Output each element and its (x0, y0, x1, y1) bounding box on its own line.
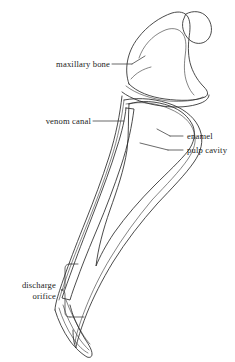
label-maxillary-bone: maxillary bone (56, 59, 110, 69)
venom-canal-band (62, 108, 134, 300)
label-enamel: enamel (187, 131, 213, 141)
maxillary-bone-suture (139, 29, 194, 95)
text-labels: maxillary bone venom canal enamel pulp c… (22, 59, 228, 301)
venom-canal-group (62, 108, 134, 300)
pulp-cavity-group (96, 102, 194, 266)
label-pulp-cavity: pulp cavity (187, 145, 228, 155)
leader-enamel-angled (157, 129, 170, 136)
fang-anterior-inner (59, 100, 124, 300)
maxillary-bone-group (122, 12, 211, 107)
figure-root: maxillary bone venom canal enamel pulp c… (0, 0, 235, 362)
leader-pulp-cavity-angled (140, 143, 168, 150)
maxillary-bone-ridge (131, 67, 151, 79)
maxillary-bone-body (127, 12, 208, 100)
pulp-cavity-fill (96, 102, 194, 266)
maxillary-bone-knob (182, 12, 211, 44)
fang-anatomy-diagram: maxillary bone venom canal enamel pulp c… (0, 0, 235, 362)
enamel-inner-edge (75, 103, 195, 344)
fang-tip-group (55, 300, 92, 357)
label-venom-canal: venom canal (46, 116, 92, 126)
label-discharge-orifice-line2: orifice (33, 291, 57, 301)
label-discharge-orifice-line1: discharge (22, 280, 56, 290)
leader-maxillary-bone-angled (132, 56, 145, 64)
